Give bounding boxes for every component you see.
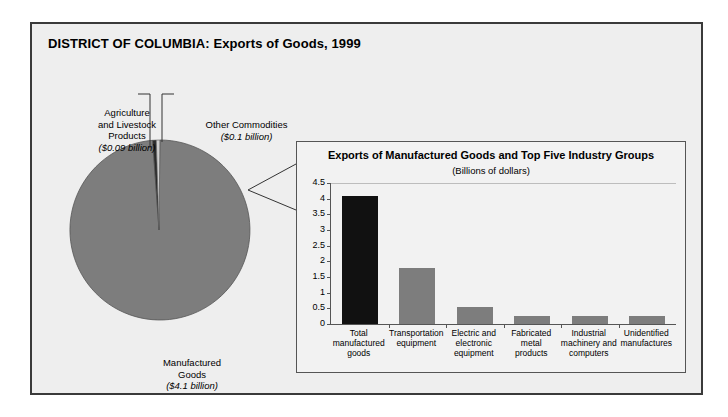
x-axis-category-label: Fabricatedmetalproducts — [503, 328, 561, 358]
y-axis-tick-mark — [327, 293, 331, 294]
figure-frame: DISTRICT OF COLUMBIA: Exports of Goods, … — [30, 22, 703, 395]
x-axis-category-label: Industrialmachinery andcomputers — [560, 328, 618, 358]
y-axis-tick-mark — [327, 277, 331, 278]
x-axis-category-label-line: electronic — [456, 338, 492, 348]
x-axis-category-label-line: manufactured — [333, 338, 385, 348]
pie-label-other-amount: ($0.1 billion) — [221, 131, 273, 142]
x-axis-category-label-line: computers — [569, 348, 609, 358]
y-axis-tick-mark — [327, 261, 331, 262]
bar-chart-panel: Exports of Manufactured Goods and Top Fi… — [296, 141, 686, 373]
x-axis-category-label-line: Electric and — [452, 328, 496, 338]
pie-chart-svg — [32, 24, 322, 397]
bar-4 — [514, 316, 550, 324]
x-axis-category-label-line: Fabricated — [511, 328, 551, 338]
x-axis-category-label-line: Industrial — [572, 328, 607, 338]
y-axis-tick-mark — [327, 214, 331, 215]
x-axis-category-label-line: manufactures — [621, 338, 673, 348]
plot-top-border — [331, 183, 676, 184]
x-axis-category-label: Transportationequipment — [388, 328, 446, 348]
y-axis-tick-label: 1 — [320, 287, 325, 298]
x-axis-category-label-line: equipment — [454, 348, 494, 358]
y-axis-tick-mark — [327, 246, 331, 247]
bar-3 — [457, 307, 493, 324]
x-axis-category-label-line: metal — [521, 338, 542, 348]
pie-label-agriculture-amount: ($0.09 billion) — [98, 142, 155, 153]
bar-1 — [342, 196, 378, 324]
pie-label-agriculture-line2: and Livestock — [98, 119, 156, 130]
y-axis-tick-mark — [327, 308, 331, 309]
pie-label-agriculture-line1: Agriculture — [104, 107, 149, 118]
callout-connector — [248, 164, 296, 210]
x-axis-category-label-line: products — [515, 348, 548, 358]
pie-slice-manufactured — [70, 140, 250, 320]
bar-6 — [629, 316, 665, 324]
x-axis-category-label-line: Unidentified — [624, 328, 669, 338]
pie-label-agriculture: Agriculture and Livestock Products ($0.0… — [72, 107, 182, 153]
x-axis-category-label-line: machinery and — [561, 338, 617, 348]
pie-chart: Agriculture and Livestock Products ($0.0… — [32, 24, 322, 397]
pie-label-manufactured-line2: Goods — [178, 369, 206, 380]
pie-label-manufactured-line1: Manufactured — [163, 357, 221, 368]
pie-label-other-commodities: Other Commodities ($0.1 billion) — [184, 119, 309, 142]
x-axis-category-label-line: Transportation — [389, 328, 444, 338]
y-axis-tick-label: 0.5 — [312, 302, 325, 313]
x-axis-category-label: Unidentifiedmanufactures — [618, 328, 676, 348]
bar-chart-subtitle: (Billions of dollars) — [297, 165, 685, 176]
y-axis-tick-label: 4 — [320, 193, 325, 204]
pie-label-manufactured-goods: Manufactured Goods ($4.1 billion) — [117, 357, 267, 392]
y-axis-tick-mark — [327, 199, 331, 200]
y-axis-tick-label: 3 — [320, 224, 325, 235]
y-axis-tick-label: 2 — [320, 255, 325, 266]
bar-chart-plot-area: 00.511.522.533.544.5 — [330, 183, 676, 325]
y-axis-tick-mark — [327, 324, 331, 325]
y-axis-tick-label: 1.5 — [312, 271, 325, 282]
pie-label-other-line1: Other Commodities — [206, 119, 288, 130]
pie-label-manufactured-amount: ($4.1 billion) — [166, 380, 218, 391]
y-axis-tick-label: 0 — [320, 318, 325, 329]
x-axis-category-label: Totalmanufacturedgoods — [330, 328, 388, 358]
bar-2 — [399, 268, 435, 324]
bar-5 — [572, 316, 608, 324]
y-axis-tick-label: 3.5 — [312, 208, 325, 219]
y-axis-tick-mark — [327, 230, 331, 231]
x-axis-category-label-line: Total — [350, 328, 368, 338]
x-axis-category-label-line: equipment — [396, 338, 436, 348]
pie-label-agriculture-line3: Products — [108, 130, 146, 141]
y-axis-tick-label: 2.5 — [312, 240, 325, 251]
x-axis-category-label: Electric andelectronicequipment — [445, 328, 503, 358]
bar-chart-title: Exports of Manufactured Goods and Top Fi… — [297, 149, 685, 161]
y-axis-tick-label: 4.5 — [312, 177, 325, 188]
x-axis-category-label-line: goods — [347, 348, 370, 358]
